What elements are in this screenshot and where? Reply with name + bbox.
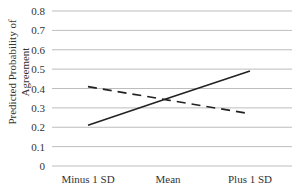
x-tick-label: Mean bbox=[155, 173, 181, 185]
x-tick-label: Minus 1 SD bbox=[61, 173, 114, 185]
data-series bbox=[88, 71, 250, 125]
y-tick-label: 0.6 bbox=[31, 44, 45, 56]
y-tick-label: 0.7 bbox=[31, 24, 45, 36]
series-line-dashed bbox=[88, 87, 250, 114]
y-tick-label: 0 bbox=[40, 160, 46, 172]
series-line-solid bbox=[88, 71, 250, 125]
x-tick-label: Plus 1 SD bbox=[228, 173, 272, 185]
y-tick-label: 0.2 bbox=[31, 121, 45, 133]
y-axis-ticks: 00.10.20.30.40.50.60.70.8 bbox=[31, 5, 45, 172]
gridlines bbox=[52, 11, 292, 166]
line-chart: 00.10.20.30.40.50.60.70.8 Minus 1 SDMean… bbox=[0, 0, 300, 187]
x-axis-ticks: Minus 1 SDMeanPlus 1 SD bbox=[61, 173, 272, 185]
y-axis-label: Predicted Probability ofAgreement bbox=[6, 19, 31, 124]
y-tick-label: 0.3 bbox=[31, 102, 45, 114]
y-tick-label: 0.1 bbox=[31, 141, 45, 153]
y-tick-label: 0.5 bbox=[31, 63, 45, 75]
y-tick-label: 0.4 bbox=[31, 83, 45, 95]
y-tick-label: 0.8 bbox=[31, 5, 45, 17]
